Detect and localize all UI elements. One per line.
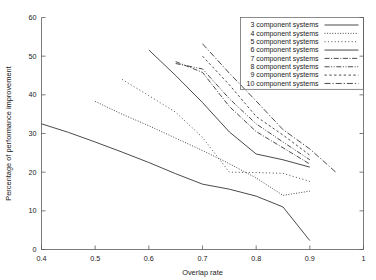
legend-label-3: 3 component systems xyxy=(250,21,319,29)
y-tick-label: 50 xyxy=(29,52,37,61)
y-tick-label: 10 xyxy=(29,206,37,215)
legend-label-9: 9 component systems xyxy=(250,71,319,79)
chart-figure: 0.40.50.60.70.80.91 0102030405060 3 comp… xyxy=(0,0,376,280)
legend-label-4: 4 component systems xyxy=(250,30,319,38)
y-tick-label: 30 xyxy=(29,129,37,138)
legend-label-10: 10 component systems xyxy=(247,80,319,88)
x-tick-label: 0.6 xyxy=(144,254,154,263)
y-axis-title: Percentage of performance improvement xyxy=(4,66,13,200)
y-tick-label: 0 xyxy=(33,245,37,254)
x-tick-label: 0.4 xyxy=(37,254,47,263)
x-tick-label: 0.7 xyxy=(198,254,208,263)
y-tick-label: 20 xyxy=(29,168,37,177)
x-axis-title: Overlap rate xyxy=(182,268,223,277)
legend-label-5: 5 component systems xyxy=(250,38,319,46)
x-tick-label: 1 xyxy=(362,254,366,263)
line-chart: 0.40.50.60.70.80.91 0102030405060 3 comp… xyxy=(0,0,376,280)
x-tick-label: 0.8 xyxy=(251,254,261,263)
y-tick-label: 60 xyxy=(29,13,37,22)
chart-background xyxy=(0,0,376,280)
y-tick-label: 40 xyxy=(29,90,37,99)
legend-label-7: 7 component systems xyxy=(250,55,319,63)
x-tick-label: 0.5 xyxy=(90,254,100,263)
legend-label-8: 8 component systems xyxy=(250,63,319,71)
legend-label-6: 6 component systems xyxy=(250,46,319,54)
x-tick-label: 0.9 xyxy=(305,254,315,263)
